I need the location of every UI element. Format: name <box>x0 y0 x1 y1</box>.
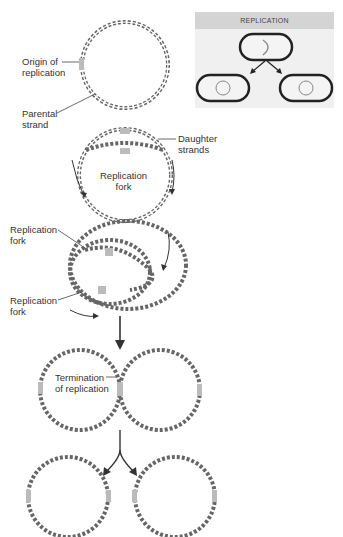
replication-fork-label-bottom: Replication fork <box>10 295 57 317</box>
origin-highlight <box>79 58 84 70</box>
termination-label: Termination of replication <box>55 372 109 394</box>
inset-cells <box>195 29 334 108</box>
parental-strand-label: Parental strand <box>22 108 57 130</box>
replication-fork-label-center: Replication fork <box>100 170 147 192</box>
replication-inset: REPLICATION <box>195 12 334 108</box>
daughter-circle-right <box>132 457 217 537</box>
daughter-cell-right <box>280 75 332 101</box>
replication-fork-label-top: Replication fork <box>10 224 57 246</box>
parent-cell <box>240 34 292 60</box>
origin-label: Origin of replication <box>22 56 65 78</box>
daughter-cell-left <box>197 75 249 101</box>
daughter-circle-left <box>26 457 111 537</box>
daughter-strands-label: Daughter strands <box>178 133 217 155</box>
inset-title: REPLICATION <box>195 12 334 29</box>
